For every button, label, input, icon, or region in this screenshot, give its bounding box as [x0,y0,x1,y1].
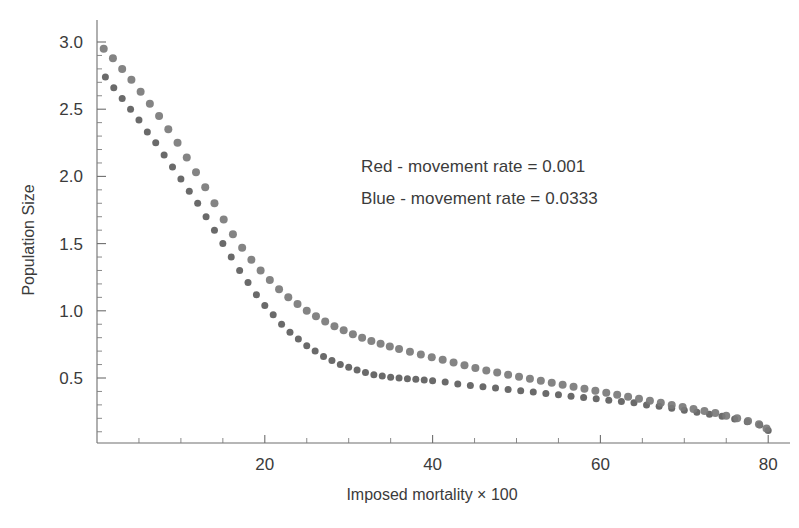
data-point [467,382,474,389]
data-point [328,357,335,364]
data-point [186,188,193,195]
data-point [542,390,549,397]
data-point [460,361,468,369]
data-point [110,84,117,91]
data-point [345,364,352,371]
data-point [479,383,486,390]
data-point [429,377,436,384]
data-point [228,254,235,261]
data-point [763,424,771,432]
data-point [635,395,643,403]
y-tick-label: 0.5 [59,369,83,388]
data-point [295,336,302,343]
data-point [118,65,126,73]
data-point [284,293,292,301]
data-point [183,154,191,162]
data-point [722,412,730,420]
data-point [203,213,210,220]
data-point [312,348,319,355]
data-point [493,369,501,377]
data-point [330,322,338,330]
data-point [454,381,461,388]
plot-canvas: 204060800.51.01.52.02.53.0 Imposed morta… [0,0,799,528]
data-point [450,359,458,367]
data-point [194,200,201,207]
data-point [278,321,285,328]
data-point [119,95,126,102]
data-point [312,312,320,320]
x-tick-label: 80 [759,455,778,474]
legend-entry-blue: Blue - movement rate = 0.0333 [361,189,598,209]
data-point [570,383,578,391]
data-point [568,393,575,400]
data-point [755,420,763,428]
data-point [624,393,632,401]
data-point [164,125,172,133]
data-point [442,379,449,386]
data-point [340,326,348,334]
data-point [613,391,621,399]
data-point [146,100,154,108]
y-tick-label: 1.5 [59,235,83,254]
data-point [679,403,687,411]
data-point [127,76,135,84]
data-point [439,356,447,364]
data-point [618,398,625,405]
data-point [303,342,310,349]
data-series-red [102,73,772,433]
x-tick-label: 60 [591,455,610,474]
data-point [201,183,209,191]
data-point [417,350,425,358]
data-point [211,227,218,234]
data-point [733,414,741,422]
data-point [210,199,218,207]
data-point [236,267,243,274]
data-point [593,395,600,402]
legend-blue-value: 0.0333 [545,189,598,208]
data-point [155,112,163,120]
legend-red-value: 0.001 [542,157,585,176]
data-point [349,330,357,338]
data-point [303,307,311,315]
data-point [537,377,545,385]
data-point [261,302,268,309]
data-point [690,405,698,413]
data-point [548,379,556,387]
data-point [229,230,237,238]
data-point [127,106,134,113]
data-point [109,54,117,62]
data-point [386,342,394,350]
data-point [700,407,708,415]
data-point [668,401,676,409]
data-point [266,276,274,284]
data-point [504,371,512,379]
x-axis-title: Imposed mortality × 100 [346,486,517,503]
legend-blue-equals: = [530,189,540,208]
scatter-plot-figure: 204060800.51.01.52.02.53.0 Imposed morta… [0,0,799,528]
data-point [367,337,375,345]
data-point [379,372,386,379]
data-point [135,116,142,123]
data-point [245,279,252,286]
data-point [559,381,567,389]
y-tick-label: 3.0 [59,33,83,52]
data-point [144,129,151,136]
data-point [177,176,184,183]
data-point [275,285,283,293]
data-point [555,391,562,398]
data-point [605,397,612,404]
data-point [396,375,403,382]
data-point [744,417,752,425]
data-point [492,385,499,392]
data-point [192,168,200,176]
data-series-blue [100,45,771,433]
data-point [270,311,277,318]
data-point [174,139,182,147]
data-point [505,386,512,393]
data-point [169,163,176,170]
data-point [387,374,394,381]
data-point [337,361,344,368]
legend-entry-red: Red - movement rate = 0.001 [361,157,585,177]
data-point [428,353,436,361]
data-point [247,256,255,264]
